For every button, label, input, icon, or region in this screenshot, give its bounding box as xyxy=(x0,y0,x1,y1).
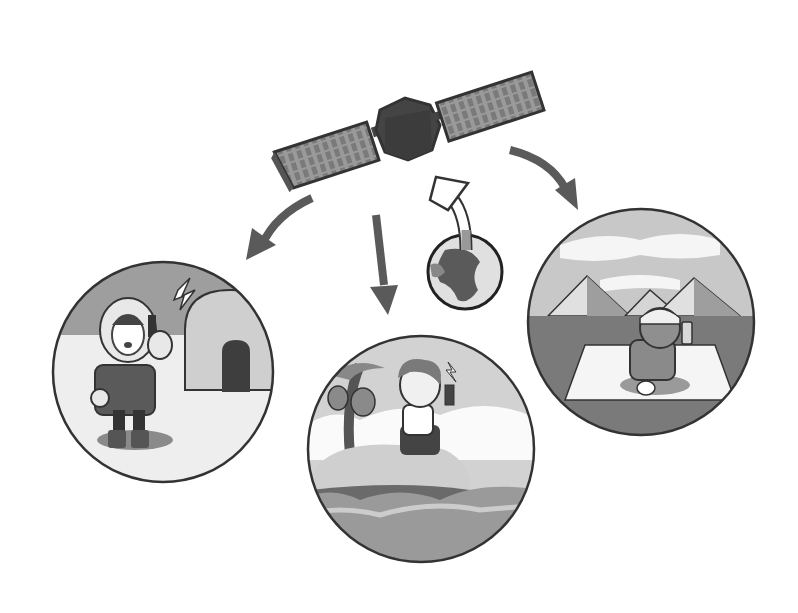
arrow-to-desert-icon xyxy=(510,150,578,210)
desert-scene xyxy=(520,200,760,446)
satellite-communication-illustration xyxy=(0,0,798,613)
island-scene xyxy=(300,330,540,570)
arrow-to-arctic-icon xyxy=(246,198,312,260)
satellite-icon xyxy=(270,72,544,194)
arrow-to-island-icon xyxy=(370,215,398,315)
